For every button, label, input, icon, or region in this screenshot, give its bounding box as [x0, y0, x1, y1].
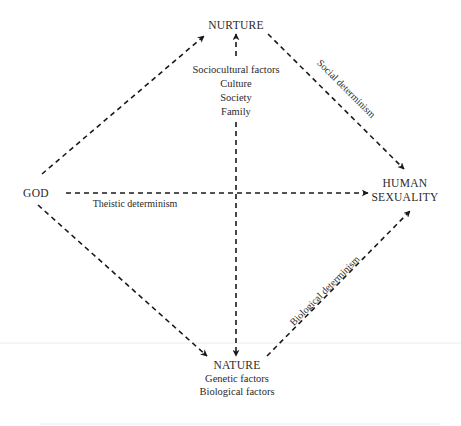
node-god: GOD: [23, 187, 49, 199]
edge-god-to-nature: [38, 205, 207, 356]
nurture-detail-family: Family: [221, 106, 252, 117]
edge-label-biological: Biological determinism: [287, 253, 362, 328]
node-human-sexuality-line1: HUMAN: [383, 177, 428, 189]
nurture-detail-culture: Culture: [220, 78, 252, 89]
edge-nurture-to-human-sexuality: [268, 34, 404, 169]
nurture-detail-society: Society: [220, 92, 252, 103]
nature-detail-biological: Biological factors: [200, 386, 275, 397]
node-nurture: NURTURE: [208, 19, 264, 31]
nurture-detail-sociocultural: Sociocultural factors: [192, 64, 279, 75]
node-human-sexuality-line2: SEXUALITY: [371, 191, 439, 203]
node-nature: NATURE: [213, 359, 260, 371]
edge-label-social: Social determinism: [315, 57, 378, 120]
edge-label-theistic: Theistic determinism: [93, 198, 178, 209]
nature-nurture-diagram: GOD NURTURE Sociocultural factors Cultur…: [0, 0, 461, 426]
nature-detail-genetic: Genetic factors: [205, 373, 269, 384]
edge-god-to-nurture: [42, 36, 204, 174]
